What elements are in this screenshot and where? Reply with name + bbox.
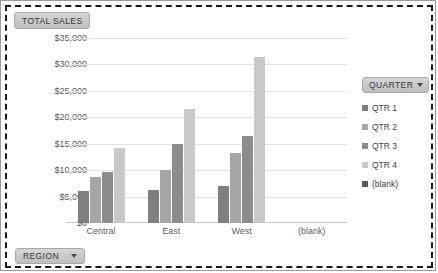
legend-item[interactable]: QTR 4 <box>362 155 398 174</box>
legend-item[interactable]: QTR 1 <box>362 98 398 117</box>
bar-group <box>277 38 347 223</box>
legend: QTR 1QTR 2QTR 3QTR 4(blank) <box>362 98 398 193</box>
bar[interactable] <box>90 177 101 224</box>
legend-header-button[interactable]: QUARTER <box>362 77 429 93</box>
region-filter-button[interactable]: REGION <box>15 248 85 264</box>
legend-item-label: (blank) <box>372 179 398 189</box>
bar[interactable] <box>184 109 195 223</box>
legend-swatch-icon <box>362 162 368 168</box>
bar[interactable] <box>78 191 89 223</box>
x-axis-category-label: Central <box>66 226 136 242</box>
legend-item[interactable]: QTR 2 <box>362 117 398 136</box>
bar[interactable] <box>148 190 159 223</box>
bar[interactable] <box>218 186 229 223</box>
bar[interactable] <box>102 172 113 223</box>
region-filter-label: REGION <box>23 251 59 261</box>
bar-groups <box>66 38 347 223</box>
bar[interactable] <box>172 144 183 223</box>
x-axis-category-label: West <box>207 226 277 242</box>
legend-item-label: QTR 2 <box>372 122 397 132</box>
bar-group <box>207 38 277 223</box>
chart-frame: TOTAL SALES $35,000$30,000$25,000$20,000… <box>0 0 436 271</box>
bar-group <box>136 38 206 223</box>
bar[interactable] <box>242 136 253 223</box>
legend-swatch-icon <box>362 181 368 187</box>
value-field-label: TOTAL SALES <box>22 16 82 26</box>
legend-item[interactable]: QTR 3 <box>362 136 398 155</box>
bar[interactable] <box>114 148 125 223</box>
chevron-down-icon <box>417 83 423 87</box>
bar[interactable] <box>160 170 171 223</box>
x-axis-category-labels: CentralEastWest(blank) <box>66 226 347 242</box>
legend-header-label: QUARTER <box>369 80 413 90</box>
x-axis-category-label: East <box>136 226 206 242</box>
legend-swatch-icon <box>362 124 368 130</box>
legend-item-label: QTR 1 <box>372 103 397 113</box>
value-field-button[interactable]: TOTAL SALES <box>14 12 90 29</box>
legend-item-label: QTR 3 <box>372 141 397 151</box>
bar[interactable] <box>230 153 241 223</box>
legend-swatch-icon <box>362 105 368 111</box>
bar-group <box>66 38 136 223</box>
legend-swatch-icon <box>362 143 368 149</box>
legend-item[interactable]: (blank) <box>362 174 398 193</box>
legend-item-label: QTR 4 <box>372 160 397 170</box>
x-axis-category-label: (blank) <box>277 226 347 242</box>
plot-area <box>66 38 347 223</box>
bar[interactable] <box>254 57 265 224</box>
chevron-down-icon <box>71 254 77 258</box>
